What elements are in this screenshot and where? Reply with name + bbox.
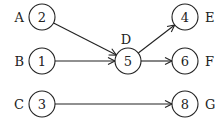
node-f: 6F — [172, 48, 214, 74]
node-value: 3 — [38, 97, 46, 112]
edge-b-d — [55, 58, 115, 65]
node-label: D — [121, 32, 131, 47]
node-value: 4 — [181, 10, 189, 25]
node-a: 2A — [14, 4, 55, 30]
node-value: 6 — [181, 54, 189, 69]
node-g: 8G — [172, 91, 215, 117]
edges-layer — [54, 23, 175, 108]
node-label: C — [14, 97, 24, 112]
node-value: 5 — [124, 54, 132, 69]
node-label: F — [205, 54, 214, 69]
node-e: 4E — [172, 4, 215, 30]
node-c: 3C — [14, 91, 55, 117]
edge-d-f — [141, 58, 172, 65]
node-b: 1B — [14, 48, 55, 74]
edge-a-d — [54, 23, 117, 55]
node-label: E — [205, 10, 215, 25]
edge-c-g — [55, 101, 172, 108]
edge-d-e — [138, 25, 174, 53]
node-value: 1 — [38, 54, 46, 69]
node-label: A — [14, 10, 25, 25]
node-value: 2 — [38, 10, 46, 25]
node-label: B — [14, 54, 24, 69]
node-d: 5D — [115, 32, 141, 74]
node-value: 8 — [181, 97, 189, 112]
node-label: G — [205, 97, 215, 112]
nodes-layer: 2A1B3C5D4E6F8G — [14, 4, 216, 117]
directed-graph: 2A1B3C5D4E6F8G — [0, 0, 219, 126]
